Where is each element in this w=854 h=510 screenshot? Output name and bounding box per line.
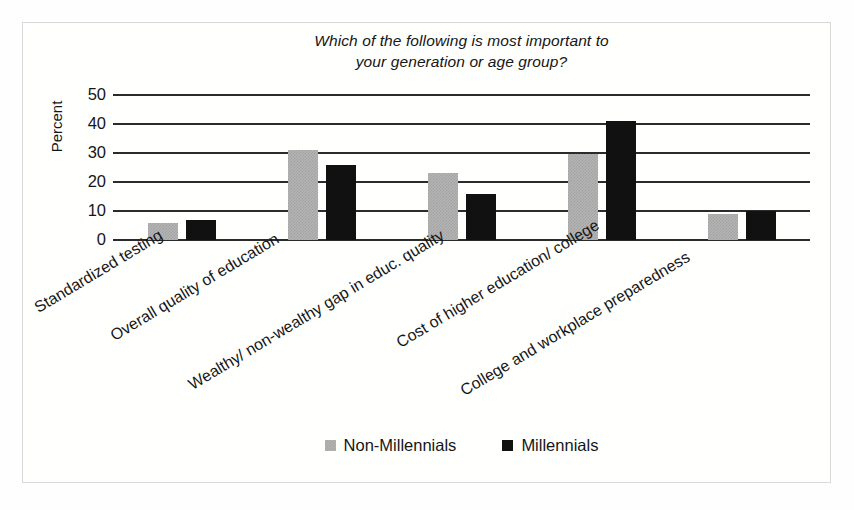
gridline-10 — [113, 210, 810, 212]
chart-figure: Which of the following is most important… — [0, 0, 854, 510]
legend-swatch-icon-non-millennials — [325, 440, 336, 451]
plot-area — [113, 95, 810, 240]
bar-millennials-group-3[interactable] — [466, 194, 496, 240]
bar-non-millennials-group-5[interactable] — [708, 214, 738, 240]
y-tick-label-10: 10 — [60, 202, 106, 218]
bar-non-millennials-group-2[interactable] — [288, 150, 318, 240]
bar-millennials-group-1[interactable] — [186, 220, 216, 240]
y-axis-tick-labels: 01020304050 — [60, 95, 106, 240]
legend-label-millennials: Millennials — [521, 436, 598, 455]
y-tick-label-40: 40 — [60, 115, 106, 131]
legend-label-non-millennials: Non-Millennials — [344, 436, 457, 455]
y-tick-label-50: 50 — [60, 86, 106, 102]
chart-legend: Non-Millennials Millennials — [113, 436, 810, 455]
gridline-0 — [113, 239, 810, 241]
bar-millennials-group-5[interactable] — [746, 211, 776, 240]
chart-title: Which of the following is most important… — [113, 30, 810, 72]
y-tick-label-30: 30 — [60, 144, 106, 160]
bar-millennials-group-2[interactable] — [326, 165, 356, 240]
legend-item-millennials[interactable]: Millennials — [502, 436, 598, 455]
gridline-30 — [113, 152, 810, 154]
bar-millennials-group-4[interactable] — [606, 121, 636, 240]
legend-item-non-millennials[interactable]: Non-Millennials — [325, 436, 457, 455]
gridline-20 — [113, 181, 810, 183]
y-tick-label-0: 0 — [60, 231, 106, 247]
gridline-50 — [113, 94, 810, 96]
gridline-40 — [113, 123, 810, 125]
chart-title-line-2: your generation or age group? — [113, 51, 810, 72]
legend-swatch-icon-millennials — [502, 440, 513, 451]
chart-title-line-1: Which of the following is most important… — [113, 30, 810, 51]
y-tick-label-20: 20 — [60, 173, 106, 189]
